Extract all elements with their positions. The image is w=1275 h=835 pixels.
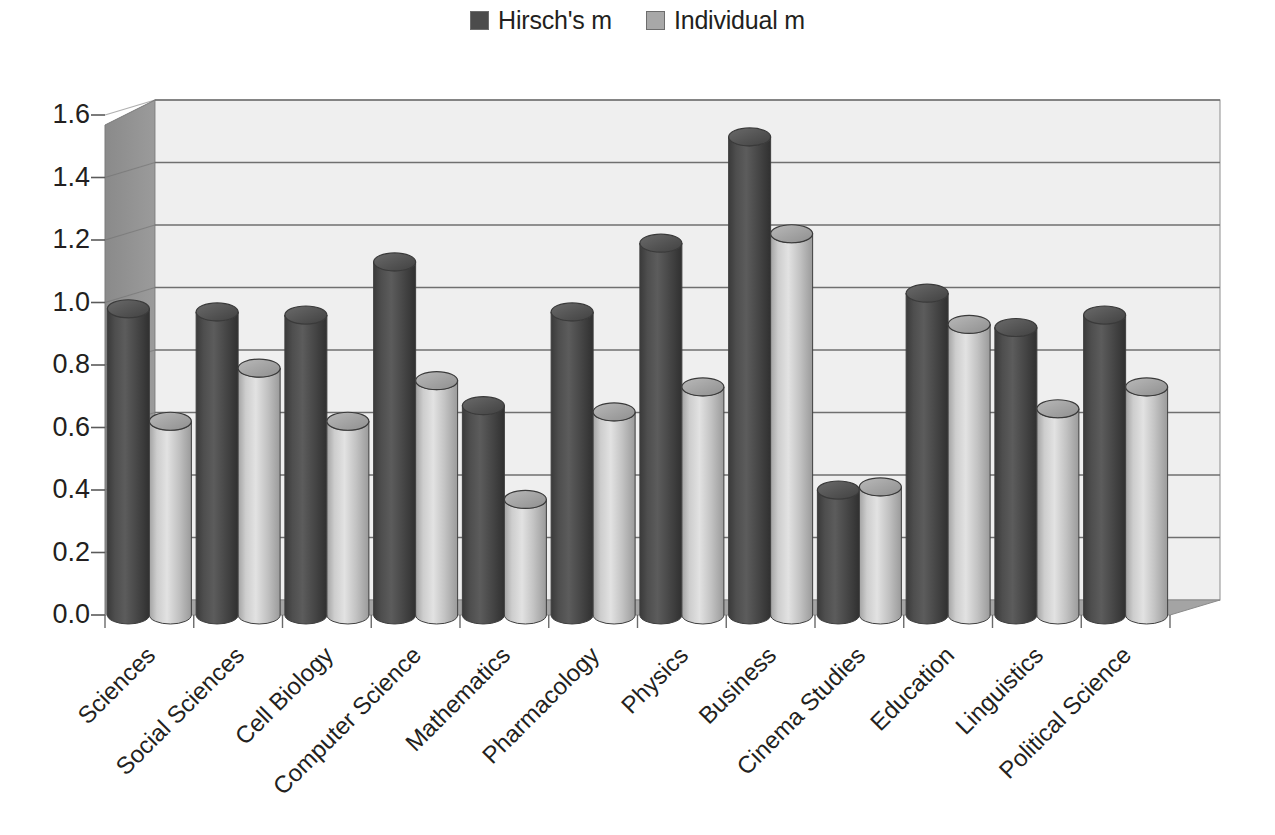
x-axis-tick-label: Education [866, 643, 958, 735]
x-axis-tick-label: Physics [617, 643, 692, 718]
bar-chart: 0.00.20.40.60.81.01.21.41.6 SciencesSoci… [0, 0, 1275, 835]
x-axis-tick-label: Sciences [74, 643, 160, 729]
x-axis-labels: SciencesSocial SciencesCell BiologyCompu… [0, 0, 1275, 835]
x-axis-tick-label: Business [695, 643, 781, 729]
